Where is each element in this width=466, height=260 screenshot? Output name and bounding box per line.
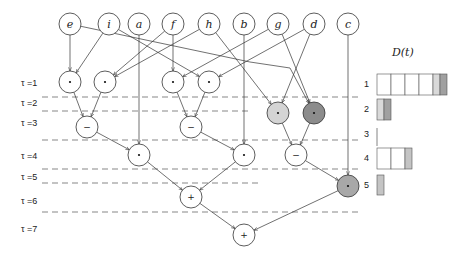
graph-edge (148, 162, 183, 190)
dataflow-graph: eiafhbgdc−−−++ τ =1τ =2τ =3τ =4τ =5τ =6τ… (0, 0, 466, 260)
op-node-m9 (337, 175, 359, 197)
input-node-e: e (59, 13, 81, 35)
op-node-m6 (303, 102, 325, 124)
time-label: τ =6 (21, 196, 37, 206)
svg-text:−: − (187, 122, 195, 132)
svg-text:e: e (67, 18, 74, 31)
op-node-m8 (233, 144, 255, 166)
svg-text:h: h (205, 18, 212, 31)
time-label: τ =3 (21, 118, 37, 128)
graph-edge (91, 92, 101, 117)
svg-text:4: 4 (364, 153, 369, 163)
input-node-h: h (198, 13, 220, 35)
op-node-m7 (128, 144, 150, 166)
svg-text:2: 2 (364, 104, 369, 114)
svg-text:1: 1 (364, 79, 369, 89)
svg-text:i: i (107, 18, 111, 31)
op-node-m4 (198, 71, 220, 93)
svg-text:b: b (240, 18, 247, 31)
d-row-2: 2 (364, 99, 391, 120)
op-node-p1: + (180, 186, 202, 208)
input-node-a: a (128, 13, 150, 35)
graph-edge (305, 161, 338, 181)
input-node-d: d (303, 13, 325, 35)
input-node-c: c (337, 13, 359, 35)
time-label: τ =2 (21, 98, 37, 108)
time-step-labels: τ =1τ =2τ =3τ =4τ =5τ =6τ =7 (21, 78, 37, 234)
time-label: τ =4 (21, 151, 37, 161)
graph-edge (201, 132, 235, 150)
d-of-t-title: D(t) (391, 46, 414, 59)
graph-edge (195, 92, 205, 117)
graph-edge (254, 191, 338, 231)
graph-edge (183, 29, 269, 76)
svg-text:−: − (83, 122, 91, 132)
graph-edge (282, 123, 291, 145)
graph-edge (200, 203, 235, 228)
op-node-s2: − (180, 116, 202, 138)
graph-nodes: eiafhbgdc−−−++ (59, 13, 359, 246)
svg-text:−: − (292, 150, 300, 160)
input-node-f: f (162, 13, 184, 35)
input-node-g: g (267, 13, 289, 35)
svg-text:3: 3 (364, 129, 369, 139)
graph-edge (200, 162, 236, 190)
d-row-4: 4 (364, 148, 412, 169)
op-node-s3: − (285, 144, 307, 166)
svg-text:+: + (187, 192, 195, 202)
d-row-3: 3 (364, 128, 377, 146)
svg-text:+: + (240, 230, 248, 240)
graph-edge (81, 26, 309, 103)
schedule-diagram: eiafhbgdc−−−++ τ =1τ =2τ =3τ =4τ =5τ =6τ… (0, 0, 466, 260)
svg-text:g: g (274, 18, 281, 31)
op-node-p2: + (233, 224, 255, 246)
input-node-b: b (233, 13, 255, 35)
graph-edges (70, 26, 348, 230)
time-label: τ =7 (21, 224, 37, 234)
time-label: τ =1 (21, 78, 37, 88)
op-node-m1 (59, 71, 81, 93)
time-label: τ =5 (21, 172, 37, 182)
op-node-m2 (94, 71, 116, 93)
op-node-s1: − (76, 116, 98, 138)
d-row-5: 5 (364, 175, 384, 195)
op-node-m3 (162, 71, 184, 93)
graph-edge (74, 92, 83, 116)
d-row-1: 1 (364, 74, 447, 95)
op-node-m5 (267, 102, 289, 124)
graph-edge (177, 92, 187, 117)
svg-text:d: d (310, 18, 317, 31)
svg-text:a: a (136, 18, 143, 31)
graph-edge (76, 33, 103, 73)
input-node-i: i (98, 13, 120, 35)
d-of-t-panel: D(t) 12345 (364, 46, 447, 195)
graph-edge (300, 123, 309, 145)
svg-text:c: c (345, 18, 351, 31)
svg-text:5: 5 (364, 180, 369, 190)
graph-edge (97, 132, 130, 150)
